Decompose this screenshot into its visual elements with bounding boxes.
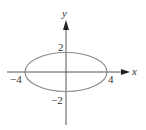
tick-label-x-pos: 4 (108, 74, 114, 85)
tick-label-y-pos: 2 (58, 42, 64, 53)
tick-label-x-neg: −4 (10, 74, 22, 85)
y-axis-arrow-icon (63, 20, 69, 30)
tick-label-y-neg: −2 (51, 95, 63, 106)
y-axis-label: y (62, 8, 67, 19)
diagram-canvas (0, 0, 146, 130)
x-axis-label: x (132, 66, 137, 77)
ellipse-diagram: y x 2 −2 −4 4 (0, 0, 146, 130)
x-axis-arrow-icon (121, 69, 130, 75)
